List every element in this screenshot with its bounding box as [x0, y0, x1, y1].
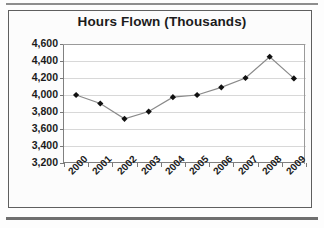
x-axis-tick	[233, 163, 234, 167]
data-point-marker	[194, 92, 200, 98]
plot-top-border	[63, 44, 305, 45]
chart-title: Hours Flown (Thousands)	[0, 14, 324, 29]
bottom-divider-rule	[6, 217, 318, 220]
x-axis-tick	[185, 163, 186, 167]
x-axis-tick	[282, 163, 283, 167]
data-point-marker	[146, 108, 152, 114]
x-axis-tick	[161, 163, 162, 167]
y-axis-label: 3,800	[0, 105, 58, 117]
y-axis-label: 3,200	[0, 156, 58, 168]
x-axis-tick	[137, 163, 138, 167]
y-axis-label: 3,400	[0, 139, 58, 151]
y-axis-label: 4,000	[0, 88, 58, 100]
data-series-hours-flown	[64, 44, 306, 163]
x-axis-tick	[64, 163, 65, 167]
data-point-marker	[73, 92, 79, 98]
chart-figure: Hours Flown (Thousands) 4,6004,4004,2004…	[0, 0, 324, 228]
plot-right-border	[304, 44, 305, 164]
y-axis-label: 4,400	[0, 54, 58, 66]
top-divider-rule	[6, 3, 318, 5]
y-axis-label: 3,600	[0, 122, 58, 134]
data-point-marker	[97, 100, 103, 106]
plot-area	[63, 44, 305, 163]
x-axis-tick	[209, 163, 210, 167]
y-axis-label: 4,200	[0, 71, 58, 83]
x-axis-tick	[112, 163, 113, 167]
x-axis-tick	[258, 163, 259, 167]
data-point-marker	[170, 94, 176, 100]
data-point-marker	[218, 84, 224, 90]
series-line	[76, 57, 294, 119]
x-axis-tick	[88, 163, 89, 167]
x-axis-tick	[306, 163, 307, 167]
data-point-marker	[121, 116, 127, 122]
y-axis-label: 4,600	[0, 37, 58, 49]
